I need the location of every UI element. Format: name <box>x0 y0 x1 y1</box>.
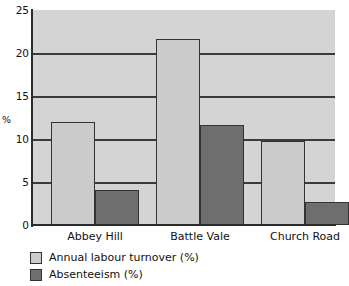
bar-group-church-road <box>261 10 349 225</box>
y-tick-25: 25 <box>3 5 29 15</box>
x-axis-line <box>31 224 336 226</box>
y-tick-5: 5 <box>3 177 29 187</box>
y-axis-title: % <box>2 114 11 125</box>
bar-abbey-hill-turnover <box>51 122 95 225</box>
legend-item-absenteeism: Absenteeism (%) <box>30 266 280 283</box>
chart-legend: Annual labour turnover (%) Absenteeism (… <box>30 249 280 283</box>
legend-label-turnover: Annual labour turnover (%) <box>49 251 199 264</box>
y-tick-20: 20 <box>3 48 29 58</box>
bar-church-road-absenteeism <box>305 202 349 225</box>
bar-group-abbey-hill <box>51 10 139 225</box>
legend-swatch-turnover <box>30 252 42 264</box>
y-axis-line <box>31 9 33 227</box>
bar-church-road-turnover <box>261 141 305 225</box>
bar-battle-vale-turnover <box>156 39 200 225</box>
x-label-abbey-hill: Abbey Hill <box>51 230 139 244</box>
y-tick-0: 0 <box>3 220 29 230</box>
x-label-battle-vale: Battle Vale <box>156 230 244 244</box>
y-axis-ticks: 25 20 15 10 5 0 <box>0 0 29 286</box>
legend-label-absenteeism: Absenteeism (%) <box>49 268 143 281</box>
bars-layer <box>33 10 335 225</box>
y-tick-15: 15 <box>3 91 29 101</box>
bar-group-battle-vale <box>156 10 244 225</box>
x-label-church-road: Church Road <box>261 230 349 244</box>
bar-abbey-hill-absenteeism <box>95 190 139 225</box>
y-tick-10: 10 <box>3 134 29 144</box>
legend-swatch-absenteeism <box>30 269 42 281</box>
legend-item-turnover: Annual labour turnover (%) <box>30 249 280 266</box>
bar-battle-vale-absenteeism <box>200 125 244 225</box>
